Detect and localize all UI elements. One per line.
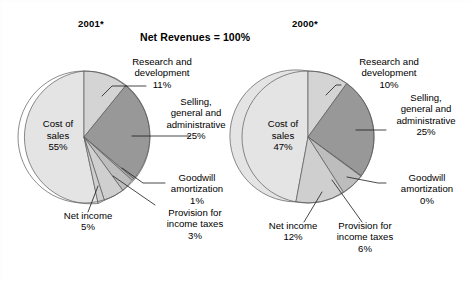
right-rd-value: 10% [339,79,439,90]
right-callout-provision-income-taxes: Provision for income taxes 6% [322,220,408,254]
left-net-income-value: 5% [47,221,129,232]
right-net-income-value: 12% [258,231,328,242]
right-cost-of-sales-name-line1: Cost of [243,118,323,130]
left-goodwill-line2: amortization [157,183,237,194]
right-sga-line2: general and [386,103,466,114]
left-callout-research-development: Research and development 11% [112,56,212,90]
left-sga-line1: Selling, [157,96,235,107]
left-taxes-value: 3% [152,230,238,241]
left-rd-line1: Research and [112,56,212,67]
left-taxes-line1: Provision for [152,207,238,218]
left-cost-of-sales-label: Cost of sales 55% [18,118,98,153]
left-net-income-line1: Net income [47,210,129,221]
left-callout-sga: Selling, general and administrative 25% [157,96,235,142]
right-net-income-line1: Net income [258,220,328,231]
left-sga-line2: general and [157,107,235,118]
right-callout-research-development: Research and development 10% [339,56,439,90]
right-goodwill-value: 0% [387,195,467,206]
right-cost-of-sales-value: 47% [243,141,323,153]
right-sga-line1: Selling, [386,92,466,103]
right-cost-of-sales-name-line2: sales [243,130,323,142]
right-cost-of-sales-label: Cost of sales 47% [243,118,323,153]
left-callout-net-income: Net income 5% [47,210,129,233]
left-taxes-line2: income taxes [152,218,238,229]
left-cost-of-sales-name-line2: sales [18,130,98,142]
left-goodwill-line1: Goodwill [157,172,237,183]
right-taxes-line2: income taxes [322,231,408,242]
left-sga-value: 25% [157,130,235,141]
right-rd-line2: development [339,67,439,78]
right-sga-line3: administrative [386,115,466,126]
right-callout-goodwill-amortization: Goodwill amortization 0% [387,172,467,206]
right-sga-value: 25% [386,126,466,137]
right-goodwill-line2: amortization [387,183,467,194]
right-taxes-line1: Provision for [322,220,408,231]
left-cost-of-sales-name-line1: Cost of [18,118,98,130]
left-sga-line3: administrative [157,119,235,130]
right-goodwill-line1: Goodwill [387,172,467,183]
right-rd-line1: Research and [339,56,439,67]
left-callout-goodwill-amortization: Goodwill amortization 1% [157,172,237,206]
left-rd-value: 11% [112,79,212,90]
left-rd-line2: development [112,67,212,78]
left-cost-of-sales-value: 55% [18,141,98,153]
pie-chart-figure: 2001* Net Revenues = 100% 2000* [0,0,469,282]
left-callout-provision-income-taxes: Provision for income taxes 3% [152,207,238,241]
right-callout-sga: Selling, general and administrative 25% [386,92,466,138]
right-taxes-value: 6% [322,243,408,254]
left-goodwill-value: 1% [157,195,237,206]
right-callout-net-income: Net income 12% [258,220,328,243]
